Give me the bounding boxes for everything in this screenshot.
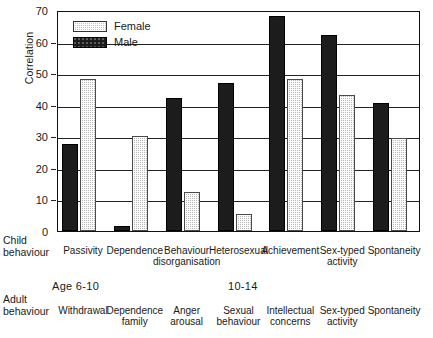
bar-male <box>321 35 337 231</box>
bar-male <box>269 16 285 231</box>
bar-male <box>114 226 130 231</box>
y-tick-20: 20 <box>36 163 48 174</box>
y-tick-30: 30 <box>36 132 48 143</box>
adult-behaviour-row-label: Adult behaviour <box>3 294 49 317</box>
bar-male <box>218 83 234 231</box>
child-behaviour-label-line1: Child <box>3 235 49 247</box>
bar-group <box>110 12 162 231</box>
bar-group <box>214 12 266 231</box>
y-tick-40: 40 <box>36 100 48 111</box>
chart-figure: Correlation 70 60 50 40 30 20 10 0 Femal… <box>0 0 433 338</box>
child-behaviour-categories: PassivityDependenceBehaviourdisorganisat… <box>57 245 420 271</box>
bar-group <box>162 12 214 231</box>
y-tick-10: 10 <box>36 195 48 206</box>
bar-male <box>166 98 182 231</box>
y-tick-60: 60 <box>36 37 48 48</box>
adult-behaviour-label-line1: Spontaneity <box>360 305 428 316</box>
child-behaviour-label: Spontaneity <box>360 245 428 256</box>
bar-male <box>373 103 389 231</box>
bar-female <box>132 136 148 231</box>
bar-group <box>58 12 110 231</box>
bar-female <box>80 79 96 231</box>
child-behaviour-row-label: Child behaviour <box>3 235 49 258</box>
y-tick-50: 50 <box>36 69 48 80</box>
bar-female <box>287 79 303 231</box>
adult-behaviour-label-line2: activity <box>308 316 376 327</box>
age-group-10-14: 10-14 <box>228 281 258 292</box>
adult-behaviour-label: Spontaneity <box>360 305 428 316</box>
age-group-6-10: Age 6-10 <box>52 281 99 292</box>
child-behaviour-label-line2: disorganisation <box>153 256 221 267</box>
child-behaviour-label-line1: Spontaneity <box>360 245 428 256</box>
bar-female <box>236 214 252 231</box>
bar-group <box>265 12 317 231</box>
y-tick-70: 70 <box>36 6 48 17</box>
bar-series-container <box>58 12 419 231</box>
bar-male <box>62 144 78 231</box>
y-axis-tick-labels: 70 60 50 40 30 20 10 0 <box>0 0 57 243</box>
adult-behaviour-label-line2: behaviour <box>3 306 49 318</box>
child-behaviour-label-line2: activity <box>308 256 376 267</box>
adult-behaviour-label-line1: Adult <box>3 294 49 306</box>
bar-female <box>184 192 200 231</box>
bar-female <box>339 95 355 231</box>
bar-group <box>369 12 421 231</box>
adult-behaviour-categories: WithdrawalDependencefamilyAngerarousalSe… <box>57 305 420 331</box>
plot-area: Female Male <box>57 11 420 232</box>
bar-female <box>391 138 407 231</box>
bar-group <box>317 12 369 231</box>
child-behaviour-label-line2: behaviour <box>3 247 49 259</box>
